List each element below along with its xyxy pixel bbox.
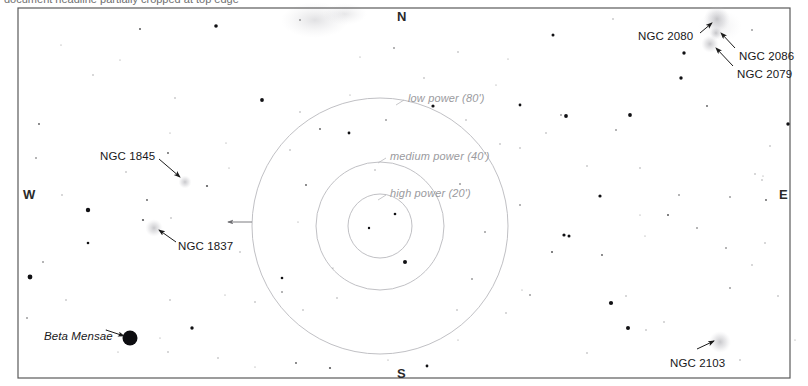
star-dot (332, 267, 333, 268)
star-dot (299, 111, 300, 112)
star-dot (142, 219, 144, 221)
star-dot (146, 199, 148, 201)
high-power-ring-label: high power (20') (390, 187, 471, 199)
star-dot (521, 289, 522, 290)
star-dot (586, 352, 587, 353)
star-dot (87, 242, 90, 245)
star-dot (65, 299, 66, 300)
star-dot (552, 34, 555, 37)
star-dot (374, 169, 375, 170)
medium-power-ring-label: medium power (40') (390, 150, 490, 162)
star-dot (644, 235, 645, 236)
star-dot (387, 359, 388, 360)
star-dot (302, 309, 303, 310)
star-dot (682, 51, 685, 54)
ngc-1845-label: NGC 1845 (100, 150, 155, 162)
cardinal-label-west: W (23, 187, 35, 202)
star-dot (169, 132, 170, 133)
star-dot (457, 339, 458, 340)
leader-lines-layer (106, 23, 735, 349)
star-dot (545, 132, 546, 133)
eyepiece-circles-layer (228, 98, 508, 354)
ngc-1837-label: NGC 1837 (178, 240, 233, 252)
star-dot (190, 326, 193, 329)
star-dot (471, 278, 473, 280)
low-power-ring-label: low power (80') (408, 92, 485, 104)
star-dot (560, 114, 562, 116)
medium-power-ring[interactable] (316, 162, 444, 290)
star-dot (167, 152, 169, 154)
star-dot (42, 261, 44, 263)
beta-mensae-star[interactable] (123, 331, 138, 346)
star-dot (394, 213, 397, 216)
star-dot (519, 204, 521, 206)
ngc-1845-glow[interactable] (178, 175, 191, 188)
low-power-ring[interactable] (252, 98, 508, 354)
star-dot (239, 251, 240, 252)
star-dot (601, 254, 603, 256)
star-dot (505, 312, 506, 313)
star-dot (564, 114, 568, 118)
star-dot (678, 194, 680, 196)
star-dot (289, 149, 290, 150)
star-dot (119, 59, 120, 60)
star-dot (86, 208, 90, 212)
cardinal-label-east: E (779, 187, 788, 202)
star-dot (645, 329, 646, 330)
star-dot (125, 171, 126, 172)
star-dot (368, 227, 370, 229)
ngc-2079-glow[interactable] (701, 35, 719, 53)
ngc-1837-glow[interactable] (145, 219, 163, 237)
star-dot (507, 58, 508, 59)
star-dot (794, 339, 795, 340)
star-dot (729, 287, 731, 289)
star-dot (38, 123, 40, 125)
star-dot (349, 94, 350, 95)
star-dot (562, 233, 565, 236)
star-dot (751, 264, 752, 265)
lmc-haze-top-right (323, 3, 367, 25)
star-dot (348, 132, 351, 135)
star-chart: document headline partially cropped at t… (0, 0, 808, 386)
star-dot (456, 309, 457, 310)
star-dot (224, 294, 225, 295)
low-power-ring-label-tick (396, 100, 404, 105)
ngc-2080-label: NGC 2080 (638, 30, 693, 42)
star-dot (26, 317, 28, 319)
star-dot (764, 242, 765, 243)
star-dot (667, 214, 669, 216)
star-dot (639, 214, 640, 215)
ngc-2079-label: NGC 2079 (737, 68, 792, 80)
star-dot (762, 175, 763, 176)
star-dot (598, 194, 601, 197)
star-dot (159, 337, 160, 338)
star-dot (214, 24, 218, 28)
star-dot (625, 295, 626, 296)
ngc-1845-leader-arrow (159, 159, 180, 177)
star-dot (295, 362, 297, 364)
star-dot (609, 301, 613, 305)
star-dot (170, 217, 171, 218)
star-dot (769, 145, 770, 146)
star-dot (612, 18, 613, 19)
star-dot (586, 165, 587, 166)
star-dot (319, 128, 321, 130)
star-dot (431, 104, 434, 107)
star-dot (281, 291, 283, 293)
star-dot (751, 29, 753, 31)
star-dot (329, 367, 331, 369)
star-dot (385, 119, 387, 121)
star-dot (92, 74, 93, 75)
star-dot (457, 51, 458, 52)
star-dot (739, 359, 740, 360)
star-dot (60, 44, 61, 45)
star-dot (696, 227, 698, 229)
beta-mensae-label: Beta Mensae (44, 330, 113, 342)
star-dot (725, 247, 727, 249)
star-dot (206, 185, 208, 187)
star-dot (336, 297, 337, 298)
star-dot (359, 56, 360, 57)
star-dot (777, 295, 778, 296)
star-dot (484, 231, 486, 233)
high-power-ring[interactable] (348, 194, 412, 258)
